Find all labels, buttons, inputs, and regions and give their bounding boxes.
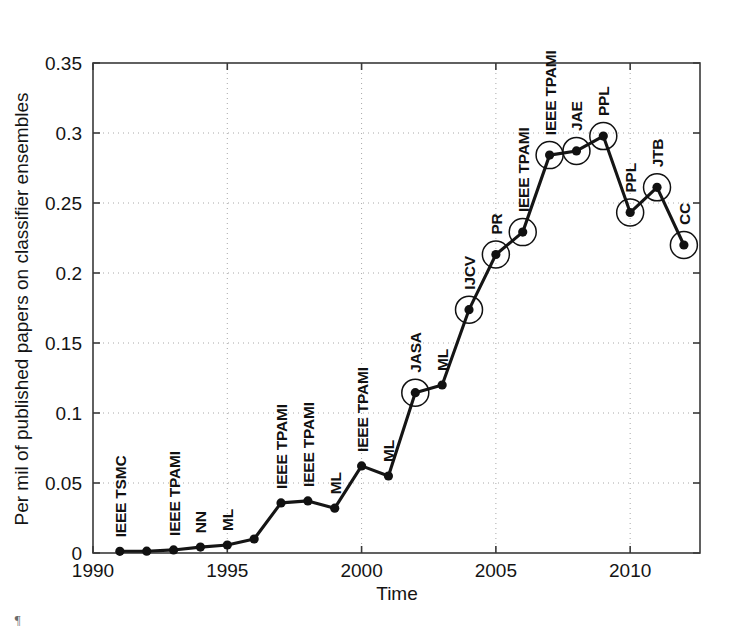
x-tick-label: 2000 xyxy=(340,560,382,581)
point-annotation-label: IEEE TPAMI xyxy=(542,50,559,135)
point-annotation-label: ML xyxy=(327,472,344,494)
data-point-marker xyxy=(250,534,259,543)
line-chart-canvas: 19901995200020052010 00.050.10.150.20.25… xyxy=(0,0,729,629)
data-point-marker xyxy=(545,151,554,160)
point-annotation-label: IEEE TPAMI xyxy=(300,402,317,487)
data-point-marker xyxy=(142,547,151,556)
data-point-marker xyxy=(652,183,661,192)
y-tick-label: 0.25 xyxy=(45,193,82,214)
x-axis-title: Time xyxy=(376,583,418,604)
data-point-marker xyxy=(223,540,232,549)
page-corner-mark: ¶ xyxy=(14,612,21,627)
y-tick-label: 0.2 xyxy=(56,263,82,284)
y-tick-label: 0.35 xyxy=(45,53,82,74)
point-annotation-label: ML xyxy=(219,509,236,531)
data-point-marker xyxy=(357,461,366,470)
point-annotation-label: IEEE TSMC xyxy=(112,456,129,538)
data-point-marker xyxy=(196,543,205,552)
point-annotation-label: IEEE TPAMI xyxy=(515,127,532,212)
data-point-marker xyxy=(679,240,688,249)
point-annotation-label: PPL xyxy=(622,163,639,193)
point-annotation-label: NN xyxy=(192,511,209,533)
point-annotation-label: PR xyxy=(488,213,505,234)
x-tick-label: 2010 xyxy=(609,560,651,581)
x-tick-label: 1995 xyxy=(206,560,248,581)
data-point-marker xyxy=(115,547,124,556)
x-tick-label: 2005 xyxy=(475,560,517,581)
data-point-marker xyxy=(330,504,339,513)
data-point-marker xyxy=(276,498,285,507)
point-annotation-label: PPL xyxy=(595,87,612,117)
point-annotation-label: JAE xyxy=(568,101,585,131)
data-point-marker xyxy=(438,380,447,389)
data-point-marker xyxy=(384,471,393,480)
point-annotation-label: IJCV xyxy=(461,255,478,290)
chart-figure: 19901995200020052010 00.050.10.150.20.25… xyxy=(0,0,729,629)
point-annotation-label: IEEE TPAMI xyxy=(273,404,290,489)
data-point-marker xyxy=(518,228,527,237)
y-tick-label: 0.05 xyxy=(45,473,82,494)
y-tick-label: 0.3 xyxy=(56,123,82,144)
point-annotation-label: ML xyxy=(434,349,451,371)
chart-background xyxy=(0,0,729,629)
y-tick-label: 0.1 xyxy=(56,403,82,424)
y-tick-label: 0.15 xyxy=(45,333,82,354)
data-point-marker xyxy=(572,146,581,155)
data-point-marker xyxy=(491,250,500,259)
point-annotation-label: CC xyxy=(676,203,693,225)
data-point-marker xyxy=(169,545,178,554)
data-point-marker xyxy=(626,208,635,217)
y-tick-label: 0 xyxy=(71,543,82,564)
data-point-marker xyxy=(303,496,312,505)
data-point-marker xyxy=(599,131,608,140)
data-point-marker xyxy=(464,305,473,314)
point-annotation-label: ML xyxy=(380,440,397,462)
data-point-marker xyxy=(411,388,420,397)
point-annotation-label: IEEE TPAMI xyxy=(354,367,371,452)
point-annotation-label: JTB xyxy=(649,139,666,168)
y-axis-title: Per mil of published papers on classifie… xyxy=(11,93,32,526)
point-annotation-label: JASA xyxy=(407,332,424,373)
point-annotation-label: IEEE TPAMI xyxy=(166,451,183,536)
